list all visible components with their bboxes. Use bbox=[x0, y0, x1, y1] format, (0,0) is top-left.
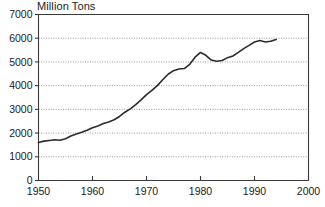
gridlines bbox=[39, 38, 309, 157]
ytick-label-2000: 2000 bbox=[9, 127, 33, 139]
y-axis-labels: 01000200030004000500060007000 bbox=[9, 8, 33, 186]
xtick-label-2000: 2000 bbox=[297, 185, 321, 197]
ytick-label-6000: 6000 bbox=[9, 32, 33, 44]
x-axis-labels: 195019601970198019902000 bbox=[27, 185, 321, 197]
axis-ticks bbox=[35, 15, 255, 181]
xtick-label-1980: 1980 bbox=[189, 185, 213, 197]
ytick-label-4000: 4000 bbox=[9, 79, 33, 91]
xtick-label-1960: 1960 bbox=[81, 185, 105, 197]
series-line-million-tons bbox=[39, 39, 277, 142]
ytick-label-5000: 5000 bbox=[9, 56, 33, 68]
xtick-label-1990: 1990 bbox=[243, 185, 267, 197]
axis-lines bbox=[39, 15, 309, 181]
data-series bbox=[39, 39, 277, 142]
chart-container: Million Tons 010002000300040005000600070… bbox=[0, 0, 325, 207]
ytick-label-7000: 7000 bbox=[9, 8, 33, 20]
xtick-label-1970: 1970 bbox=[135, 185, 159, 197]
ytick-label-3000: 3000 bbox=[9, 103, 33, 115]
plot-frame bbox=[39, 15, 309, 181]
chart-plot: 01000200030004000500060007000 1950196019… bbox=[0, 0, 325, 207]
ytick-label-1000: 1000 bbox=[9, 150, 33, 162]
xtick-label-1950: 1950 bbox=[27, 185, 51, 197]
